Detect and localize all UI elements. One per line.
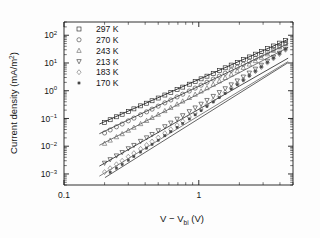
data-marker xyxy=(224,92,226,94)
legend-label: 213 K xyxy=(96,57,119,67)
data-marker xyxy=(200,110,202,112)
data-marker xyxy=(139,151,141,153)
data-marker xyxy=(133,155,135,157)
data-marker xyxy=(230,88,232,90)
svg-text:V − Vbi (V): V − Vbi (V) xyxy=(160,213,204,226)
data-marker xyxy=(218,96,220,98)
data-marker xyxy=(127,159,129,161)
data-marker xyxy=(157,139,159,141)
data-marker xyxy=(260,66,262,68)
data-marker xyxy=(242,79,244,81)
legend-label: 270 K xyxy=(96,35,119,45)
x-tick-label: 1 xyxy=(196,190,201,200)
data-marker xyxy=(194,114,196,116)
data-marker xyxy=(145,147,147,149)
data-marker xyxy=(188,118,190,120)
legend-label: 170 K xyxy=(96,78,119,88)
data-marker xyxy=(121,163,123,165)
data-marker xyxy=(284,48,286,50)
data-marker xyxy=(266,61,268,63)
data-marker xyxy=(278,52,280,54)
data-marker xyxy=(170,131,172,133)
data-marker xyxy=(206,105,208,107)
data-marker xyxy=(212,101,214,103)
y-axis-title: Current density (mA/m2) xyxy=(8,52,19,154)
legend-label: 243 K xyxy=(96,46,119,56)
legend-label: 297 K xyxy=(96,24,119,34)
data-marker xyxy=(182,122,184,124)
data-marker xyxy=(254,70,256,72)
log-log-chart: 0.1110210110010−110−210−3 297 K270 K243 … xyxy=(0,0,320,238)
data-marker xyxy=(115,167,117,169)
data-marker xyxy=(248,75,250,77)
data-marker xyxy=(236,84,238,86)
figure-panel: 0.1110210110010−110−210−3 297 K270 K243 … xyxy=(0,0,320,238)
data-marker xyxy=(109,171,111,173)
data-marker xyxy=(176,126,178,128)
data-marker xyxy=(272,57,274,59)
data-marker xyxy=(164,135,166,137)
legend-label: 183 K xyxy=(96,67,119,77)
data-marker xyxy=(151,143,153,145)
svg-text:Current density (mA/m2): Current density (mA/m2) xyxy=(8,52,19,154)
x-tick-label: 0.1 xyxy=(58,190,70,200)
x-axis-title: V − Vbi (V) xyxy=(160,213,204,226)
data-marker xyxy=(78,82,80,84)
